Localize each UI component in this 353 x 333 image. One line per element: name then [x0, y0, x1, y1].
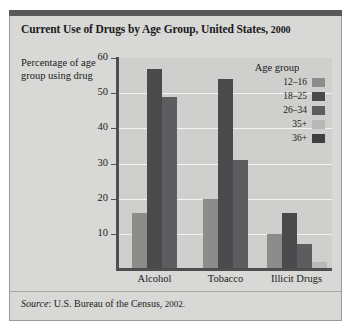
y-tick-mark: [111, 58, 117, 59]
y-tick-mark: [111, 93, 117, 94]
bar: [147, 69, 162, 269]
legend-entry-label: 36+: [292, 133, 307, 143]
bar: [162, 97, 177, 269]
legend-swatch: [312, 134, 325, 143]
y-tick-mark: [111, 199, 117, 200]
y-tick-label: 20: [82, 192, 108, 203]
legend-entries: 12–1618–2526–3435+36+: [233, 75, 325, 145]
x-tick-label: Illicit Drugs: [247, 273, 347, 284]
legend-title: Age group: [233, 62, 325, 73]
legend: Age group 12–1618–2526–3435+36+: [233, 62, 325, 145]
y-tick-mark: [111, 234, 117, 235]
bar: [203, 199, 218, 269]
chart-title-year: 2000: [271, 24, 291, 35]
source-note: Source: U.S. Bureau of the Census, 2002.: [21, 298, 185, 309]
y-tick-label: 40: [82, 121, 108, 132]
bar: [282, 213, 297, 269]
legend-entry: 12–16: [233, 75, 325, 89]
bar: [267, 234, 282, 269]
bar: [218, 79, 233, 269]
legend-swatch: [312, 106, 325, 115]
legend-entry: 18–25: [233, 89, 325, 103]
legend-entry-label: 26–34: [283, 105, 307, 115]
source-year: 2002.: [165, 299, 185, 309]
y-tick-label: 60: [82, 51, 108, 62]
chart-title-text: Current Use of Drugs by Age Group, Unite…: [21, 23, 268, 35]
legend-entry: 36+: [233, 131, 325, 145]
y-tick-mark: [111, 128, 117, 129]
source-text: : U.S. Bureau of the Census,: [48, 298, 162, 309]
y-tick-mark: [111, 164, 117, 165]
legend-swatch: [312, 120, 325, 129]
legend-entry: 26–34: [233, 103, 325, 117]
y-tick-label: 30: [82, 157, 108, 168]
source-label: Source: [21, 298, 48, 309]
top-rule: [9, 10, 342, 16]
legend-entry: 35+: [233, 117, 325, 131]
legend-entry-label: 12–16: [283, 77, 307, 87]
bar: [297, 244, 312, 269]
legend-swatch: [312, 78, 325, 87]
x-axis-line: [116, 268, 332, 271]
chart-figure: Current Use of Drugs by Age Group, Unite…: [0, 0, 353, 333]
bar: [233, 160, 248, 269]
y-tick-label: 50: [82, 86, 108, 97]
chart-title: Current Use of Drugs by Age Group, Unite…: [21, 23, 339, 35]
legend-entry-label: 35+: [292, 119, 307, 129]
legend-entry-label: 18–25: [283, 91, 307, 101]
legend-swatch: [312, 92, 325, 101]
y-tick-label: 10: [82, 227, 108, 238]
bar: [132, 213, 147, 269]
source-divider: [10, 291, 341, 292]
